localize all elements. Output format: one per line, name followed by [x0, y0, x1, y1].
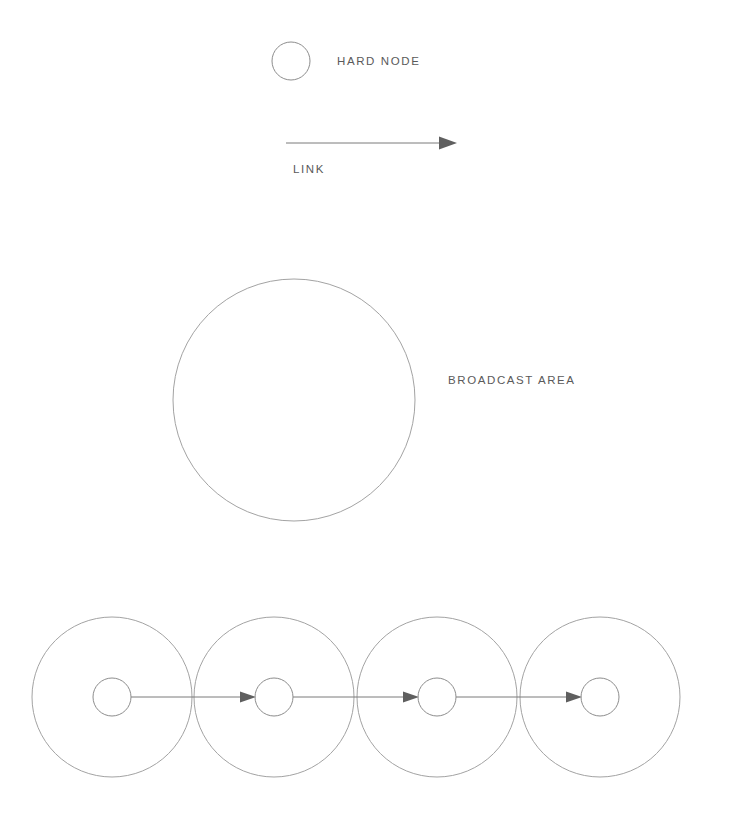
network-topology-diagram: HARD NODE LINK BROADCAST AREA	[0, 0, 730, 819]
legend-hard-node-label: HARD NODE	[337, 55, 420, 67]
arrow-right-icon	[439, 137, 457, 150]
chain-links	[131, 692, 582, 703]
hard-node-icon	[272, 42, 310, 80]
chain-hard-node-1	[93, 678, 131, 716]
arrow-right-icon	[403, 692, 419, 703]
broadcast-area-icon	[173, 279, 415, 521]
diagram-canvas: HARD NODE LINK BROADCAST AREA	[0, 0, 730, 819]
arrow-right-icon	[566, 692, 582, 703]
legend-link-label: LINK	[293, 163, 325, 175]
chain-link-1-2	[131, 692, 256, 703]
chain-hard-node-4	[581, 678, 619, 716]
chain-hard-node-2	[255, 678, 293, 716]
chain-hard-node-3	[418, 678, 456, 716]
legend-broadcast-area: BROADCAST AREA	[173, 279, 576, 521]
legend-broadcast-area-label: BROADCAST AREA	[448, 374, 576, 386]
legend-link: LINK	[286, 137, 457, 176]
legend-hard-node: HARD NODE	[272, 42, 420, 80]
chain-link-2-3	[293, 692, 419, 703]
arrow-right-icon	[240, 692, 256, 703]
chain-link-3-4	[456, 692, 582, 703]
